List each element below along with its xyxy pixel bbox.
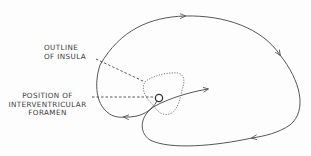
insula-label: OUTLINE OF INSULA: [44, 44, 86, 61]
foramen-label: POSITION OF INTERVENTRICULAR FORAMEN: [0, 92, 95, 118]
outer-contour-top: [100, 16, 185, 65]
inner-curl-to-foramen: [124, 101, 157, 117]
foramen-label-line3: FORAMEN: [0, 109, 95, 118]
diagram-canvas: OUTLINE OF INSULA POSITION OF INTERVENTR…: [0, 0, 311, 156]
insula-leader-line: [96, 59, 145, 82]
outer-contour-right-lower: [252, 55, 300, 138]
insula-outline: [143, 73, 184, 115]
brain-diagram-svg: [0, 0, 311, 156]
outer-contour-right: [185, 16, 280, 55]
insula-label-line2: OF INSULA: [44, 53, 86, 62]
foramen-circle: [155, 94, 162, 101]
outer-contour-left: [97, 65, 124, 117]
